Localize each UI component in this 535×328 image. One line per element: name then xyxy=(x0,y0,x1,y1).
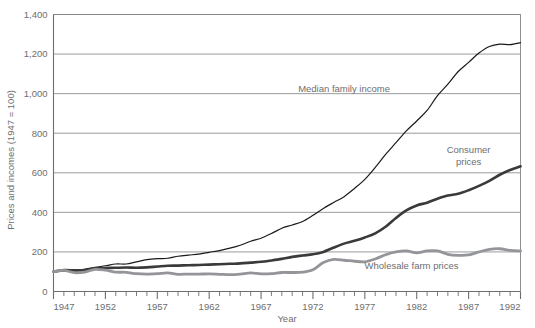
y-axis-title: Prices and incomes (1947 = 100) xyxy=(5,90,16,230)
y-tick-label: 800 xyxy=(32,128,48,139)
annotations-group: Median family incomeConsumerpricesWholes… xyxy=(298,83,490,271)
series-line-median-family-income xyxy=(54,43,521,272)
median-family-income-label: Median family income xyxy=(298,83,390,94)
x-tick-label: 1952 xyxy=(95,301,116,312)
x-tick-label: 1972 xyxy=(302,301,323,312)
y-tick-label: 0 xyxy=(42,286,47,297)
y-tick-label: 600 xyxy=(32,167,48,178)
x-axis-group: 1947195219571962196719721977198219871992 xyxy=(54,292,521,313)
y-tick-label: 400 xyxy=(32,207,48,218)
x-tick-label: 1957 xyxy=(147,301,168,312)
chart-container: 02004006008001,0001,2001,400 19471952195… xyxy=(0,0,535,328)
series-group xyxy=(54,43,521,275)
line-chart: 02004006008001,0001,2001,400 19471952195… xyxy=(0,0,535,328)
x-tick-label: 1977 xyxy=(354,301,375,312)
x-tick-label: 1967 xyxy=(250,301,271,312)
wholesale-farm-prices-label: Wholesale farm prices xyxy=(365,260,459,271)
x-tick-label: 1982 xyxy=(406,301,427,312)
x-axis-title: Year xyxy=(277,313,296,324)
y-tick-label: 1,000 xyxy=(24,88,48,99)
consumer-prices-label: Consumerprices xyxy=(447,144,491,167)
x-tick-label: 1987 xyxy=(458,301,479,312)
x-tick-label: 1947 xyxy=(54,301,75,312)
x-tick-label: 1962 xyxy=(199,301,220,312)
x-tick-label: 1992 xyxy=(499,301,520,312)
y-tick-label: 1,400 xyxy=(24,9,48,20)
y-tick-label: 1,200 xyxy=(24,48,48,59)
gridlines-group xyxy=(54,15,521,252)
y-axis-group: 02004006008001,0001,2001,400 xyxy=(24,9,54,297)
y-tick-label: 200 xyxy=(32,246,48,257)
